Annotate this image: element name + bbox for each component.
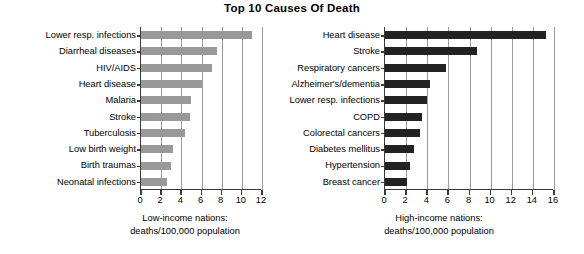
axis-caption-line: deaths/100,000 population — [344, 225, 534, 238]
plot-area-left — [140, 27, 261, 190]
bar[interactable] — [141, 162, 171, 170]
bar-row[interactable] — [385, 157, 553, 173]
bar-row[interactable] — [385, 27, 553, 43]
category-label: Malaria — [106, 92, 136, 108]
bar-row[interactable] — [385, 60, 553, 76]
y-axis-tick — [137, 133, 141, 135]
bar[interactable] — [385, 113, 422, 121]
bar-row[interactable] — [385, 125, 553, 141]
category-label: Neonatal infections — [57, 174, 136, 190]
x-axis-tick-label: 16 — [548, 195, 558, 205]
bar-rows-right — [385, 27, 553, 190]
bar-row[interactable] — [385, 76, 553, 92]
category-label: Diarrheal diseases — [59, 43, 136, 59]
y-axis-tick — [381, 117, 385, 119]
category-label: Lower resp. infections — [290, 92, 380, 108]
bar-row[interactable] — [141, 43, 261, 59]
x-axis-tick-label: 0 — [381, 195, 386, 205]
x-axis-tick-label: 0 — [137, 195, 142, 205]
bar-row[interactable] — [385, 92, 553, 108]
bar-rows-left — [141, 27, 261, 190]
x-axis-tick-label: 6 — [198, 195, 203, 205]
x-axis-tick-label: 14 — [527, 195, 537, 205]
y-axis-tick — [381, 133, 385, 135]
bar[interactable] — [385, 145, 414, 153]
gridline — [554, 27, 555, 190]
y-axis-tick — [381, 100, 385, 102]
category-label: Heart disease — [323, 27, 380, 43]
y-axis-tick — [137, 166, 141, 168]
bar-row[interactable] — [141, 92, 261, 108]
bar[interactable] — [141, 31, 252, 39]
y-axis-tick — [381, 68, 385, 70]
x-axis-tick-labels-left: 024681012 — [140, 195, 261, 208]
y-axis-tick — [137, 100, 141, 102]
bar-row[interactable] — [141, 76, 261, 92]
bar[interactable] — [385, 96, 427, 104]
x-axis-tick-label: 10 — [484, 195, 494, 205]
category-label: HIV/AIDS — [96, 60, 136, 76]
bar[interactable] — [385, 178, 407, 186]
plot-area-right — [384, 27, 553, 190]
category-label: Stroke — [353, 43, 380, 59]
bar-row[interactable] — [141, 157, 261, 173]
x-axis-tick-label: 2 — [158, 195, 163, 205]
y-axis-tick — [381, 149, 385, 151]
bar[interactable] — [385, 64, 446, 72]
bar[interactable] — [385, 129, 420, 137]
x-axis-tick-label: 12 — [506, 195, 516, 205]
bar-row[interactable] — [141, 27, 261, 43]
axis-caption-line: deaths/100,000 population — [100, 225, 270, 238]
bar[interactable] — [385, 162, 410, 170]
bar-row[interactable] — [385, 43, 553, 59]
y-axis-category-labels-right: Heart diseaseStrokeRespiratory cancersAl… — [292, 27, 380, 190]
x-axis-tick-label: 4 — [424, 195, 429, 205]
y-axis-tick — [137, 149, 141, 151]
x-axis-tick-label: 6 — [445, 195, 450, 205]
bar-row[interactable] — [385, 141, 553, 157]
bar[interactable] — [141, 129, 185, 137]
bar-row[interactable] — [141, 60, 261, 76]
y-axis-tick — [137, 117, 141, 119]
figure: Top 10 Causes Of Death Lower resp. infec… — [0, 0, 584, 254]
bar[interactable] — [385, 31, 546, 39]
x-axis-tick-label: 10 — [236, 195, 246, 205]
x-axis-tick-label: 2 — [403, 195, 408, 205]
category-label: Diabetes mellitus — [309, 141, 380, 157]
x-axis-tick-label: 12 — [256, 195, 266, 205]
y-axis-tick — [381, 182, 385, 184]
bar[interactable] — [141, 64, 212, 72]
axis-caption-line: High-income nations: — [344, 212, 534, 225]
y-axis-tick — [381, 84, 385, 86]
y-axis-tick — [137, 35, 141, 37]
y-axis-tick — [137, 51, 141, 53]
bar[interactable] — [141, 113, 190, 121]
category-label: COPD — [353, 109, 380, 125]
bar[interactable] — [141, 96, 191, 104]
category-label: Tuberculosis — [84, 125, 136, 141]
chart-panel-low-income: Lower resp. infectionsDiarrheal diseases… — [0, 22, 292, 254]
bar[interactable] — [385, 80, 430, 88]
bar[interactable] — [385, 47, 477, 55]
y-axis-tick — [381, 35, 385, 37]
x-axis-caption-left: Low-income nations:deaths/100,000 popula… — [100, 212, 270, 237]
bar-row[interactable] — [141, 141, 261, 157]
x-axis-tick-label: 8 — [218, 195, 223, 205]
bar-row[interactable] — [141, 109, 261, 125]
bar[interactable] — [141, 80, 202, 88]
chart-panel-high-income: Heart diseaseStrokeRespiratory cancersAl… — [292, 22, 584, 254]
axis-caption-line: Low-income nations: — [100, 212, 270, 225]
bar[interactable] — [141, 47, 217, 55]
bar[interactable] — [141, 145, 173, 153]
category-label: Heart disease — [79, 76, 136, 92]
y-axis-tick — [137, 68, 141, 70]
bar-row[interactable] — [141, 125, 261, 141]
category-label: Breast cancer — [323, 174, 380, 190]
y-axis-tick — [381, 51, 385, 53]
bar-row[interactable] — [385, 109, 553, 125]
category-label: Lower resp. infections — [46, 27, 136, 43]
y-axis-tick — [381, 166, 385, 168]
category-label: Stroke — [109, 109, 136, 125]
bar[interactable] — [141, 178, 167, 186]
gridline — [262, 27, 263, 190]
